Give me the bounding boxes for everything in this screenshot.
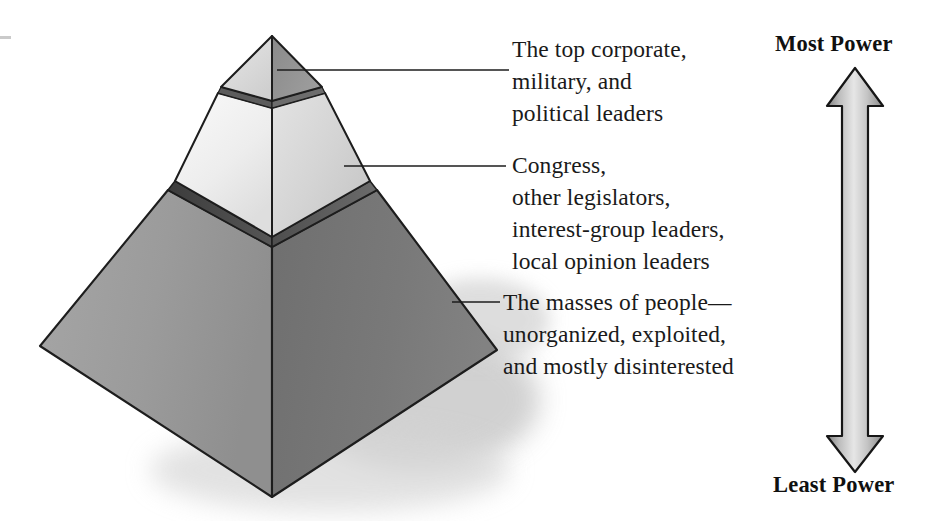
double-headed-arrow — [827, 68, 883, 472]
least-power-label: Least Power — [773, 472, 895, 498]
callout-base-tier-label: The masses of people— unorganized, explo… — [503, 286, 734, 382]
figure-canvas: The top corporate, military, and politic… — [0, 0, 947, 521]
base-tier-left-face — [40, 190, 272, 497]
power-pyramid-figure — [0, 0, 947, 521]
most-power-label: Most Power — [775, 31, 893, 57]
scan-artifact — [0, 36, 11, 39]
pyramid-tier-apex — [221, 36, 322, 101]
callout-top-tier-label: The top corporate, military, and politic… — [512, 33, 687, 129]
callout-middle-tier-label: Congress, other legislators, interest-gr… — [512, 149, 724, 277]
power-scale-arrow — [827, 68, 883, 472]
